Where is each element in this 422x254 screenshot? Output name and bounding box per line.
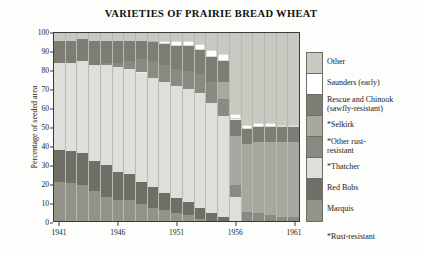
bar-segment [288,127,299,142]
bar-segment [242,129,253,144]
bar-segment [183,215,194,221]
x-axis: 19411946195119561961 [53,222,300,246]
legend-label-column: OtherSaunders (early)Rescue and Chinook(… [327,52,422,220]
bars-layer [54,33,299,221]
bar-segment [277,142,288,217]
bar-segment [206,57,217,81]
bar-1961 [288,33,299,221]
bar-1941 [54,33,66,221]
bar-segment [136,33,147,41]
bar-segment [171,46,182,69]
bar-1951 [171,33,183,221]
bar-segment [195,208,206,219]
y-tick-label: 90 [42,47,50,56]
bar-segment [89,41,100,65]
x-tick-label: 1956 [228,228,243,237]
bar-segment [195,219,206,221]
bar-segment [277,217,288,221]
plot-area [53,32,300,222]
legend-item-label: Marquis [327,205,354,213]
bar-segment [183,202,194,215]
bar-segment [148,33,159,41]
legend-item-label: *Selkirk [327,121,354,129]
y-tick-label: 80 [42,66,50,75]
x-tick-label: 1961 [287,228,302,237]
bar-segment [159,33,170,41]
y-tick-label: 60 [42,104,50,113]
legend-item-label: Other [327,58,345,66]
bar-segment [230,185,241,196]
bar-segment [242,125,253,129]
legend-item-label: *Thatcher [327,163,359,171]
bar-segment [288,142,299,217]
bar-segment [171,213,182,221]
bar-segment [101,65,112,165]
bar-1943 [77,33,89,221]
bar-1957 [242,33,254,221]
bar-segment [113,200,124,221]
legend-item-label: Saunders (early) [327,79,380,87]
legend-item: Saunders (early) [327,73,422,94]
bar-segment [288,125,299,127]
legend-swatch [307,53,322,74]
bar-segment [101,41,112,64]
legend-swatch [307,158,322,179]
bar-segment [159,210,170,221]
bar-segment [113,172,124,200]
bar-segment [218,99,229,116]
bar-segment [66,41,77,64]
bar-segment [288,33,299,125]
bar-segment [124,33,135,41]
bar-1945 [101,33,113,221]
y-tick-label: 20 [42,180,50,189]
legend-item: Rescue and Chinook(sawfly-resistant) [327,94,422,115]
x-tick-label: 1951 [169,228,184,237]
bar-1950 [159,33,171,221]
bar-segment [230,114,241,120]
bar-segment [136,73,147,182]
bar-segment [253,33,264,123]
bar-1954 [206,33,218,221]
bar-segment [89,65,100,161]
bar-segment [54,182,65,221]
legend-item: *Selkirk [327,115,422,136]
bar-1958 [253,33,265,221]
bar-segment [159,193,170,210]
bar-segment [89,33,100,41]
bar-segment [277,33,288,125]
bar-segment [242,212,253,221]
bar-segment [159,82,170,193]
bar-segment [148,41,159,43]
legend-item: *Thatcher [327,157,422,178]
bar-segment [77,61,88,153]
y-tick-label: 40 [42,142,50,151]
bar-segment [183,41,194,47]
bar-segment [124,174,135,200]
bar-segment [253,142,264,213]
bar-segment [113,41,124,64]
legend-item: Other [327,52,422,73]
legend-item: *Other rust-resistant [327,136,422,157]
bar-segment [218,82,229,99]
bar-segment [171,69,182,86]
bar-segment [54,150,65,182]
bar-segment [136,59,147,72]
bar-segment [136,182,147,205]
legend-footnote: *Rust-resistant [327,232,375,241]
bar-segment [54,63,65,149]
legend-swatch-column [306,52,323,222]
bar-segment [206,103,217,214]
legend-item-label-line2: (sawfly-resistant) [327,105,393,113]
bar-segment [230,136,241,185]
bar-segment [183,46,194,70]
bar-segment [183,89,194,202]
bar-segment [54,33,65,41]
bar-segment [124,200,135,221]
bar-segment [218,33,229,54]
bar-1946 [113,33,125,221]
legend-swatch [307,116,322,137]
bar-1952 [183,33,195,221]
legend-item: Red Bobs [327,178,422,199]
legend-item-label-line2: resistant [327,147,366,155]
bar-1944 [89,33,101,221]
